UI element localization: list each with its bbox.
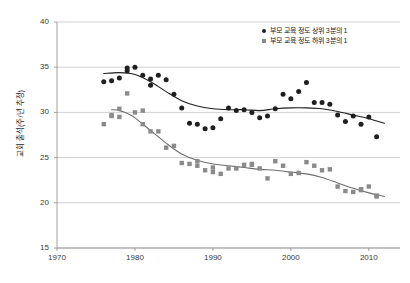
x-tick-label-1990: 1990 (193, 253, 233, 262)
data-point (296, 89, 301, 94)
data-point (367, 184, 371, 188)
data-point (117, 115, 121, 119)
data-point (374, 134, 379, 139)
y-tick-label-35: 35 (27, 62, 49, 71)
y-tick-label-15: 15 (27, 243, 49, 252)
tick-marks (54, 22, 369, 251)
data-point (273, 106, 278, 111)
data-point (141, 108, 145, 112)
data-point (328, 167, 332, 171)
data-point (211, 170, 215, 174)
data-point (211, 165, 215, 169)
data-point (281, 164, 285, 168)
chart-legend: 부모 교육 정도 상위 3분의 1 부모 교육 정도 하위 3분의 1 (262, 26, 348, 46)
y-tick-label-25: 25 (27, 153, 49, 162)
data-point (343, 119, 348, 124)
data-point (109, 114, 113, 118)
data-point (164, 77, 169, 82)
data-point (359, 122, 364, 127)
data-point (289, 172, 293, 176)
data-point (304, 160, 308, 164)
data-point (210, 125, 215, 130)
legend-label-upper-third: 부모 교육 정도 상위 3분의 1 (270, 26, 348, 36)
y-axis-title: 교회 출석(주/년 추정) (14, 59, 25, 189)
data-point (171, 92, 176, 97)
x-tick-label-2010: 2010 (349, 253, 389, 262)
scatter-plot-canvas (0, 0, 410, 283)
data-point (351, 114, 356, 119)
y-tick-label-20: 20 (27, 198, 49, 207)
chart-container: 교회 출석(주/년 추정) 152025303540 1970198019902… (0, 0, 410, 283)
data-point (226, 166, 230, 170)
data-point (156, 129, 160, 133)
data-point (327, 102, 332, 107)
markers-series-0 (101, 65, 379, 140)
legend-label-lower-third: 부모 교육 정도 하위 3분의 1 (270, 36, 348, 46)
x-tick-label-1970: 1970 (37, 253, 77, 262)
data-point (101, 79, 106, 84)
data-point (304, 80, 309, 85)
data-point (148, 76, 153, 81)
data-point (195, 122, 200, 127)
data-point (187, 121, 192, 126)
data-point (218, 116, 223, 121)
data-point (203, 168, 207, 172)
data-point (226, 105, 231, 110)
data-point (140, 73, 145, 78)
data-point (102, 122, 106, 126)
data-point (109, 78, 114, 83)
data-point (343, 189, 347, 193)
data-point (172, 144, 176, 148)
data-point (296, 171, 300, 175)
data-point (132, 65, 137, 70)
data-point (164, 145, 168, 149)
data-point (265, 114, 270, 119)
data-point (273, 159, 277, 163)
data-point (250, 162, 254, 166)
data-point (374, 194, 378, 198)
data-point (242, 107, 247, 112)
data-point (265, 176, 269, 180)
data-point (359, 188, 363, 192)
data-point (242, 163, 246, 167)
x-tick-label-1980: 1980 (115, 253, 155, 262)
data-point (320, 100, 325, 105)
data-point (288, 96, 293, 101)
series-trendlines (104, 73, 385, 197)
trendline-series-0 (104, 73, 385, 124)
square-marker-icon (262, 39, 266, 43)
data-point (257, 115, 262, 120)
data-point (281, 92, 286, 97)
data-point (234, 108, 239, 113)
circle-marker-icon (262, 29, 266, 33)
data-point (249, 110, 254, 115)
data-point (195, 164, 199, 168)
data-point (156, 73, 161, 78)
legend-item-lower-third: 부모 교육 정도 하위 3분의 1 (262, 36, 348, 46)
data-point (219, 172, 223, 176)
data-point (148, 129, 152, 133)
data-point (180, 161, 184, 165)
data-point (257, 166, 261, 170)
gridlines (57, 22, 400, 248)
data-point (125, 91, 129, 95)
data-point (179, 105, 184, 110)
data-point (187, 162, 191, 166)
series-markers (101, 65, 379, 199)
data-point (125, 66, 130, 71)
data-point (117, 107, 121, 111)
data-point (234, 166, 238, 170)
data-point (195, 159, 199, 163)
data-point (203, 126, 208, 131)
axis-lines (57, 22, 400, 248)
data-point (117, 76, 122, 81)
data-point (148, 83, 153, 88)
data-point (312, 164, 316, 168)
y-tick-label-30: 30 (27, 107, 49, 116)
data-point (351, 190, 355, 194)
data-point (133, 110, 137, 114)
data-point (335, 184, 339, 188)
data-point (312, 100, 317, 105)
data-point (141, 122, 145, 126)
data-point (335, 113, 340, 118)
